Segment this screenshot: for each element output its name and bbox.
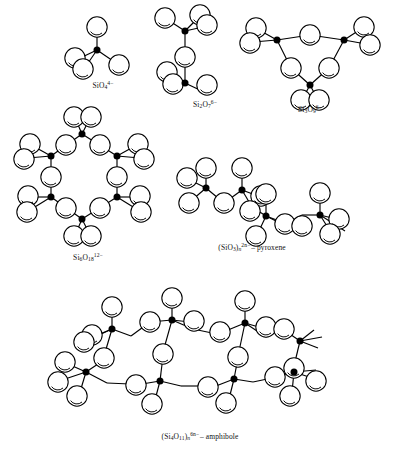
oxygen-atom [14,149,34,169]
caption-pyroxene: (SiO3)n2n− – pyroxene [218,242,285,252]
silicon-atom [263,213,270,220]
caption-charge: 2n− [241,242,250,248]
oxygen-atom [197,15,217,35]
silicon-atom [109,326,116,333]
oxygen-atom [232,158,252,178]
silicon-atom [169,317,176,324]
oxygen-atom [197,75,217,95]
oxygen-atom-bridging [41,167,61,187]
oxygen-atom-bridging [198,377,218,397]
silicon-atom [317,212,324,219]
caption-cyclosilicate-6: Si6O1812− [73,252,103,262]
oxygen-atom-bridging [281,58,301,78]
oxygen-atom-bridging [94,348,114,368]
oxygen-atom [354,17,374,37]
oxygen-atom [73,59,93,79]
silicon-atom [297,338,304,345]
oxygen-atom-bridging [126,375,146,395]
silicon-atom [94,47,101,54]
oxygen-atom [177,168,197,188]
oxygen-atom [280,386,300,406]
oxygen-atom [306,371,326,391]
silicon-atom [203,185,210,192]
silicon-atom [83,369,90,376]
oxygen-atom [131,202,151,222]
oxygen-atom-bridging [90,135,110,155]
oxygen-atom-bridging [265,367,285,387]
caption-pyrosilicate: Si2O76− [193,99,217,109]
oxygen-atom [81,107,101,127]
silicon-atom [341,37,348,44]
oxygen-atom [87,17,107,37]
oxygen-atom-bridging [210,322,230,342]
oxygen-atom [360,35,380,55]
oxygen-atom [142,394,162,414]
caption-amphibole: (Si4O11)n6n− – amphibole [162,431,239,441]
oxygen-atom [320,224,340,244]
oxygen-atom [48,372,68,392]
silicon-atom [114,153,121,160]
silicon-atom [242,320,249,327]
caption-orthosilicate: SiO44− [92,80,113,90]
caption-suffix: – pyroxene [251,243,286,252]
silicon-atom [182,80,189,87]
silicon-atom [114,194,121,201]
caption-cyclosilicate-3: Si3O96− [298,104,322,114]
oxygen-atom [17,202,37,222]
caption-formula: SiO [92,81,104,90]
oxygen-atom [184,311,204,331]
oxygen-atom-bridging [90,198,110,218]
oxygen-atom-bridging [292,216,312,236]
oxygen-atom-bridging [56,135,76,155]
oxygen-atom [179,193,199,213]
oxygen-atom-bridging [175,47,195,67]
oxygen-atom [109,55,129,75]
oxygen-atom-bridging [300,25,320,45]
caption-formula: (Si [162,432,171,441]
silicon-atom [307,82,314,89]
oxygen-atom [134,149,154,169]
oxygen-atom [74,332,94,352]
oxygen-atom [240,201,260,221]
silicate-structures-figure [0,0,401,451]
caption-charge: 6− [316,104,322,110]
silicon-atom [182,28,189,35]
oxygen-atom-bridging [107,167,127,187]
oxygen-atom [256,184,276,204]
oxygen-atom [155,8,175,28]
oxygen-atom [81,226,101,246]
silicon-atom [274,37,281,44]
oxygen-atom-bridging [274,319,294,339]
oxygen-atom [256,317,276,337]
silicon-atom [79,216,86,223]
caption-charge: 12− [94,252,103,258]
oxygen-atom-bridging [153,344,173,364]
silicon-atom [231,376,238,383]
oxygen-atom [240,33,260,53]
silicon-atom [48,194,55,201]
silicon-atom [291,369,298,376]
oxygen-atom [196,158,216,178]
silicon-atom [79,131,86,138]
oxygen-atom-bridging [140,312,160,332]
oxygen-atom-bridging [56,198,76,218]
oxygen-atom [235,291,255,311]
silicon-atom [239,187,246,194]
oxygen-atom-bridging [214,193,234,213]
oxygen-atom [67,386,87,406]
caption-charge: 6n− [190,431,199,437]
caption-formula: (Si [218,243,227,252]
oxygen-atom-bridging [228,347,248,367]
caption-charge: 6− [211,99,217,105]
oxygen-atom [310,183,330,203]
oxygen-atom-bridging [319,58,339,78]
caption-suffix: – amphibole [200,432,238,441]
oxygen-atom [102,297,122,317]
oxygen-atom [55,352,75,372]
oxygen-atom [162,288,182,308]
oxygen-atom [163,74,183,94]
silicon-atom [48,153,55,160]
oxygen-atom [216,393,236,413]
caption-charge: 4− [107,80,113,86]
silicon-atom [157,378,164,385]
